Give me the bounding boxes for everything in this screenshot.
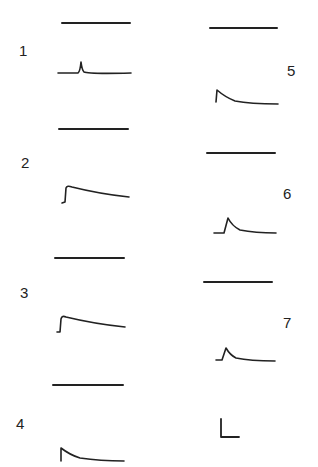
panel-4	[53, 385, 124, 461]
panel-label-4: 4	[16, 416, 24, 431]
response-trace-7	[216, 348, 275, 361]
panel-1	[58, 23, 131, 73]
panel-7	[204, 282, 275, 361]
response-trace-5	[216, 90, 278, 104]
response-trace-6	[214, 218, 276, 233]
panel-label-3: 3	[20, 285, 28, 300]
panel-label-5: 5	[287, 63, 295, 78]
response-trace-1	[58, 62, 131, 73]
panel-2	[59, 129, 129, 203]
panel-3	[55, 258, 125, 332]
panel-label-1: 1	[19, 43, 27, 58]
panel-label-2: 2	[21, 155, 29, 170]
response-trace-4	[61, 448, 124, 461]
scale-bar-icon	[221, 419, 239, 437]
response-trace-3	[57, 316, 125, 332]
traces-canvas	[0, 0, 318, 467]
response-trace-2	[62, 186, 129, 203]
panel-6	[207, 153, 276, 233]
panel-label-6: 6	[283, 186, 291, 201]
panel-5	[210, 28, 278, 104]
panel-label-7: 7	[283, 315, 291, 330]
trace-figure: 1 2 3 4 5 6 7	[0, 0, 318, 467]
